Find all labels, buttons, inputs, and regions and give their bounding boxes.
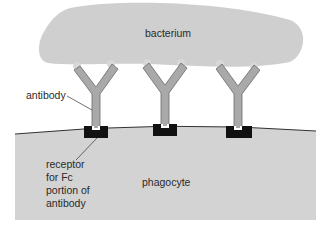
phagocyte-label: phagocyte xyxy=(142,176,191,188)
antibody-label: antibody xyxy=(26,89,66,101)
receptor-label-line3: portion of xyxy=(46,184,90,196)
fc-receptor-2 xyxy=(153,124,177,136)
antibody-3 xyxy=(216,64,260,127)
antibody-leader-line xyxy=(67,96,92,110)
receptor-label-line2: for Fc xyxy=(46,171,73,183)
antibody-1 xyxy=(74,64,118,127)
fc-receptor-1 xyxy=(84,126,108,138)
bacterium-label: bacterium xyxy=(145,27,191,39)
diagram-canvas: bacterium antibody receptor for Fc porti… xyxy=(0,0,332,225)
antibody-2 xyxy=(143,63,187,127)
fc-receptor-3 xyxy=(226,126,252,138)
receptor-label-line1: receptor xyxy=(46,158,85,170)
receptor-label-line4: antibody xyxy=(46,197,86,209)
